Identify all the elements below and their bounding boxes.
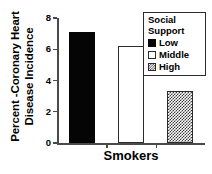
legend-item-label: Middle <box>159 50 189 60</box>
bar-low <box>69 32 95 143</box>
y-axis-tick-label: 2 <box>39 106 51 117</box>
legend-item-high: High <box>148 61 202 72</box>
y-axis-tick <box>53 142 57 143</box>
legend-item-low: Low <box>148 37 202 48</box>
legend-items: LowMiddleHigh <box>148 37 202 72</box>
legend-swatch-high-icon <box>148 63 156 71</box>
y-axis-tick-label: 0 <box>39 137 51 148</box>
legend-item-middle: Middle <box>148 49 202 60</box>
legend-title-line-1: Social <box>148 15 202 26</box>
y-axis-tick <box>53 17 57 18</box>
legend-swatch-middle-icon <box>148 51 156 59</box>
y-axis-tick <box>53 49 57 50</box>
y-axis-tick <box>53 80 57 81</box>
y-axis-title-line-1: Percent -Coronary Heart <box>9 11 21 142</box>
legend-item-label: Low <box>159 38 178 48</box>
y-axis-tick-label: 4 <box>39 75 51 86</box>
legend-item-label: High <box>159 62 180 72</box>
x-axis-title: Smokers <box>57 148 205 163</box>
legend-box: Social Support LowMiddleHigh <box>143 12 206 76</box>
y-axis-tick <box>53 111 57 112</box>
y-axis-line <box>57 18 59 143</box>
bar-high <box>167 91 193 143</box>
bar-chart-figure: Percent -Coronary Heart Disease Incidenc… <box>0 0 212 174</box>
y-axis-tick-label: 8 <box>39 12 51 23</box>
y-axis-tick-label: 6 <box>39 43 51 54</box>
legend-swatch-low-icon <box>148 39 156 47</box>
legend-title-line-2: Support <box>148 26 202 37</box>
y-axis-title: Percent -Coronary Heart Disease Incidenc… <box>0 0 44 152</box>
x-axis-line <box>57 143 205 145</box>
bar-middle <box>118 46 144 143</box>
y-axis-title-line-2: Disease Incidence <box>22 11 36 142</box>
